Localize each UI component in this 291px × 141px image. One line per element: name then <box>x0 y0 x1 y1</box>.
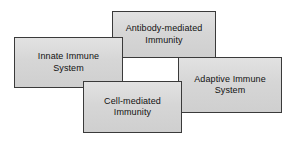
node-cell-mediated-immunity[interactable]: Cell-mediated Immunity <box>83 81 182 133</box>
node-adaptive-immune-system[interactable]: Adaptive Immune System <box>178 57 282 113</box>
node-antibody-mediated-immunity[interactable]: Antibody-mediated Immunity <box>112 11 216 58</box>
node-label-adaptive-immune-system: Adaptive Immune System <box>190 74 270 97</box>
immunity-concept-diagram: Adaptive Immune System Antibody-mediated… <box>0 0 291 141</box>
node-label-innate-immune-system: Innate Immune System <box>34 51 103 74</box>
node-label-antibody-mediated-immunity: Antibody-mediated Immunity <box>122 23 207 46</box>
node-label-cell-mediated-immunity: Cell-mediated Immunity <box>100 96 165 119</box>
